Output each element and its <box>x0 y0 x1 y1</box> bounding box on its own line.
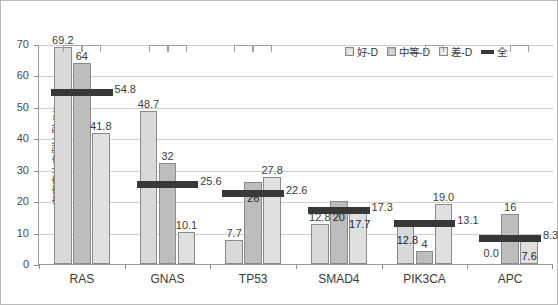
bar-PIK3CA-中等-D <box>416 251 434 264</box>
y-tick-mark <box>34 234 39 235</box>
bar-value-label: 19.0 <box>426 191 462 203</box>
bar-PIK3CA-差-D <box>435 204 453 264</box>
x-category-label: TP53 <box>210 272 296 286</box>
gridline <box>39 108 553 109</box>
x-category-label: PIK3CA <box>382 272 468 286</box>
overall-marker-RAS <box>51 89 113 96</box>
y-tick-label: 60 <box>5 69 29 81</box>
bar-RAS-好-D <box>54 47 72 264</box>
gridline <box>39 234 553 235</box>
bar-value-label: 27.8 <box>254 164 290 176</box>
overall-value-label: 13.1 <box>457 214 478 226</box>
overall-marker-PIK3CA <box>394 220 456 227</box>
x-tick-mark <box>467 264 468 269</box>
y-tick-mark <box>34 108 39 109</box>
significance-bracket <box>425 45 444 52</box>
bar-value-label: 17.7 <box>349 218 367 230</box>
gridline <box>39 202 553 203</box>
y-tick-label: 50 <box>5 101 29 113</box>
y-tick-mark <box>34 139 39 140</box>
gridline <box>39 139 553 140</box>
x-tick-mark <box>39 264 40 269</box>
x-tick-mark <box>296 264 297 269</box>
gridline <box>39 76 553 77</box>
y-tick-mark <box>34 45 39 46</box>
bar-value-label: 48.7 <box>131 98 167 110</box>
x-tick-mark <box>210 264 211 269</box>
significance-bracket <box>168 45 187 52</box>
x-category-label: SMAD4 <box>296 272 382 286</box>
significance-bracket <box>510 45 529 52</box>
x-tick-mark <box>125 264 126 269</box>
y-tick-label: 70 <box>5 38 29 50</box>
significance-bracket <box>63 45 82 52</box>
bar-GNAS-差-D <box>178 232 196 264</box>
bar-value-label: 32 <box>150 150 186 162</box>
bar-value-label: 69.2 <box>45 34 81 46</box>
significance-bracket <box>82 45 101 52</box>
bar-value-label: 16 <box>492 201 528 213</box>
overall-value-label: 22.6 <box>286 184 307 196</box>
bar-TP53-好-D <box>225 240 243 264</box>
y-tick-label: 30 <box>5 164 29 176</box>
significance-bracket <box>149 45 168 52</box>
overall-marker-SMAD4 <box>308 207 370 214</box>
x-category-label: RAS <box>39 272 125 286</box>
significance-bracket <box>234 45 253 52</box>
y-tick-label: 0 <box>5 258 29 270</box>
x-category-label: APC <box>467 272 553 286</box>
overall-marker-TP53 <box>222 190 284 197</box>
significance-bracket <box>253 45 272 52</box>
bar-value-label: 41.8 <box>83 120 119 132</box>
bar-GNAS-中等-D <box>159 163 177 264</box>
y-tick-mark <box>34 202 39 203</box>
gridline <box>39 171 553 172</box>
y-tick-mark <box>34 76 39 77</box>
y-tick-label: 40 <box>5 132 29 144</box>
bar-value-label: 7.6 <box>520 250 538 262</box>
x-tick-mark <box>552 264 553 269</box>
overall-value-label: 54.8 <box>115 83 136 95</box>
bar-RAS-差-D <box>92 133 110 264</box>
bar-SMAD4-好-D <box>311 224 329 264</box>
bar-chart: 好-D 中等-D 差-D 全 有突变的病例比例 (%) 010203040506… <box>0 0 558 305</box>
overall-value-label: 17.3 <box>372 201 393 213</box>
x-category-label: GNAS <box>125 272 211 286</box>
overall-value-label: 8.3 <box>543 229 558 241</box>
y-tick-mark <box>34 171 39 172</box>
overall-marker-APC <box>479 235 541 242</box>
bar-SMAD4-差-D <box>349 208 367 264</box>
bar-value-label: 10.1 <box>169 219 205 231</box>
plot-area: 有突变的病例比例 (%) 010203040506070RAS69.26441.… <box>38 45 552 265</box>
overall-marker-GNAS <box>137 181 199 188</box>
gridline <box>39 45 553 46</box>
overall-value-label: 25.6 <box>200 175 221 187</box>
y-tick-label: 10 <box>5 227 29 239</box>
x-tick-mark <box>382 264 383 269</box>
y-tick-label: 20 <box>5 195 29 207</box>
